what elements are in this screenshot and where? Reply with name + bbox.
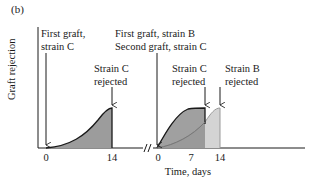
tick-label: 14 [215, 152, 226, 163]
tick-label: 0 [43, 152, 48, 163]
tick-label: 14 [107, 152, 118, 163]
annotation-strain-b-rejected: Strain B rejected [225, 62, 260, 88]
annotation-strain-c-rejected: Strain C rejected [94, 62, 129, 88]
tick-label: 0 [155, 152, 160, 163]
tick-label: 7 [188, 152, 193, 163]
x-axis-label: Time, days [165, 166, 211, 177]
annotation-strain-c-rejected-2: Strain C rejected [172, 62, 207, 88]
annotation-first-graft-b-second-c: First graft, strain B Second graft, stra… [115, 27, 207, 53]
annotation-first-graft-c: First graft, strain C [41, 27, 85, 53]
